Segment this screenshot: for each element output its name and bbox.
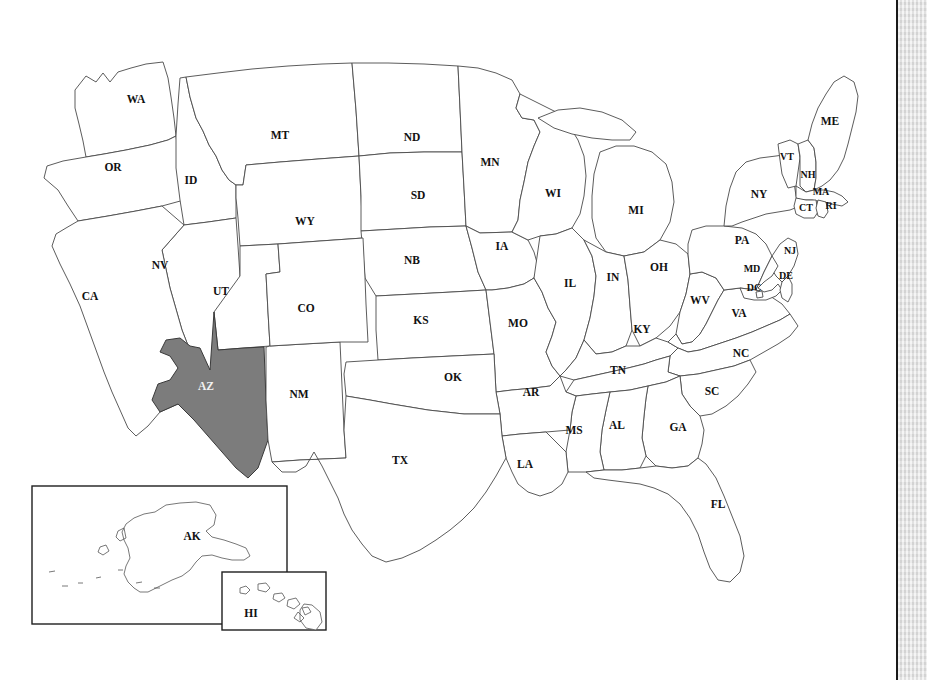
- page-canvas: AK HI WAORIDMTWYNDSDNBMNIAWIMINVUTCACOKS…: [0, 0, 927, 680]
- state-shape-nb[interactable]: [361, 226, 486, 296]
- state-label-la[interactable]: LA: [517, 458, 534, 470]
- state-label-va[interactable]: VA: [731, 307, 747, 319]
- state-label-ut[interactable]: UT: [213, 285, 229, 297]
- state-label-ks[interactable]: KS: [413, 314, 428, 326]
- state-shape-ks[interactable]: [376, 290, 494, 360]
- state-label-ky[interactable]: KY: [633, 323, 651, 335]
- state-label-al[interactable]: AL: [609, 419, 625, 431]
- state-label-vt[interactable]: VT: [780, 151, 794, 162]
- state-label-tn[interactable]: TN: [610, 364, 627, 376]
- state-label-ok[interactable]: OK: [444, 371, 462, 383]
- state-label-mi[interactable]: MI: [628, 204, 644, 216]
- state-label-co[interactable]: CO: [297, 302, 314, 314]
- state-label-wa[interactable]: WA: [127, 93, 146, 105]
- inset-hawaii[interactable]: HI: [222, 572, 326, 630]
- state-label-nc[interactable]: NC: [733, 347, 750, 359]
- state-label-fl[interactable]: FL: [711, 498, 726, 510]
- state-label-az[interactable]: AZ: [198, 380, 214, 392]
- inset-label-hi: HI: [244, 607, 258, 619]
- state-shape-fl[interactable]: [586, 458, 744, 582]
- state-label-me[interactable]: ME: [821, 115, 840, 127]
- state-label-oh[interactable]: OH: [650, 261, 668, 273]
- state-label-dc[interactable]: DC: [747, 282, 761, 293]
- state-shape-wy[interactable]: [236, 156, 363, 246]
- state-label-ny[interactable]: NY: [751, 188, 768, 200]
- state-label-de[interactable]: DE: [779, 270, 793, 281]
- state-label-sc[interactable]: SC: [705, 385, 720, 397]
- state-label-ct[interactable]: CT: [799, 202, 813, 213]
- state-label-mo[interactable]: MO: [508, 317, 528, 329]
- state-label-or[interactable]: OR: [104, 161, 122, 173]
- state-label-mn[interactable]: MN: [480, 156, 500, 168]
- page-edge-strip: [896, 0, 927, 680]
- state-shape-nm[interactable]: [266, 342, 346, 462]
- state-label-wi[interactable]: WI: [545, 187, 562, 199]
- state-shape-la[interactable]: [502, 432, 568, 496]
- state-label-tx[interactable]: TX: [392, 454, 409, 466]
- state-label-ri[interactable]: RI: [825, 200, 836, 211]
- state-label-nm[interactable]: NM: [289, 388, 308, 400]
- state-label-ar[interactable]: AR: [523, 386, 540, 398]
- state-shape-co[interactable]: [266, 238, 368, 346]
- state-label-nd[interactable]: ND: [404, 131, 421, 143]
- state-label-ia[interactable]: IA: [496, 240, 509, 252]
- state-label-il[interactable]: IL: [564, 277, 576, 289]
- state-shape-mi[interactable]: [592, 146, 674, 256]
- state-label-sd[interactable]: SD: [411, 189, 426, 201]
- state-label-ga[interactable]: GA: [669, 421, 687, 433]
- state-label-md[interactable]: MD: [744, 263, 761, 274]
- inset-label-ak: AK: [183, 530, 200, 542]
- state-label-wv[interactable]: WV: [690, 294, 711, 306]
- state-label-nv[interactable]: NV: [152, 259, 169, 271]
- state-label-ms[interactable]: MS: [565, 424, 582, 436]
- state-label-mt[interactable]: MT: [271, 129, 290, 141]
- state-label-ma[interactable]: MA: [813, 186, 830, 197]
- state-label-nh[interactable]: NH: [801, 169, 816, 180]
- page-edge-texture: [898, 0, 927, 680]
- state-label-pa[interactable]: PA: [735, 234, 750, 246]
- state-label-wy[interactable]: WY: [295, 215, 316, 227]
- state-label-nb[interactable]: NB: [404, 254, 420, 266]
- state-label-nj[interactable]: NJ: [784, 245, 796, 256]
- us-state-map[interactable]: AK HI WAORIDMTWYNDSDNBMNIAWIMINVUTCACOKS…: [0, 0, 900, 680]
- state-label-id[interactable]: ID: [185, 174, 198, 186]
- state-label-in[interactable]: IN: [607, 271, 620, 283]
- state-label-ca[interactable]: CA: [82, 290, 99, 302]
